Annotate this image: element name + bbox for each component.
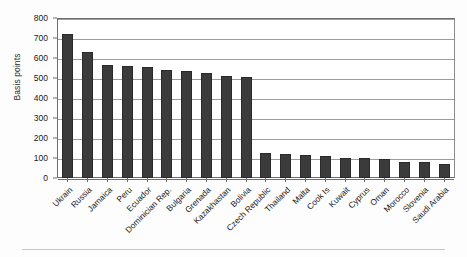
bar-slot xyxy=(216,18,236,178)
y-tick-label-500: 500 xyxy=(34,73,48,83)
y-tick-label-700: 700 xyxy=(34,33,48,43)
x-label-slot: Cook Is xyxy=(315,182,335,252)
x-label-slot: Jamaica xyxy=(98,182,118,252)
bar xyxy=(320,156,331,178)
bar xyxy=(82,52,93,178)
y-tick-label-300: 300 xyxy=(34,113,48,123)
bar-chart: Basis points 0100200300400500600700800 U… xyxy=(0,0,467,257)
x-label-slot: Kuwait xyxy=(335,182,355,252)
bar xyxy=(102,65,113,178)
bar-slot xyxy=(395,18,415,178)
bar xyxy=(201,73,212,178)
bar-slot xyxy=(315,18,335,178)
bar xyxy=(62,34,73,178)
y-tick-label-600: 600 xyxy=(34,53,48,63)
y-tick-label-100: 100 xyxy=(34,153,48,163)
bar xyxy=(241,77,252,178)
bar-slot xyxy=(375,18,395,178)
bar-slot xyxy=(296,18,316,178)
y-tick-label-800: 800 xyxy=(34,13,48,23)
bar-slot xyxy=(117,18,137,178)
bar-slot xyxy=(98,18,118,178)
bottom-table-strip xyxy=(22,249,445,257)
x-label-slot: Ukrain xyxy=(58,182,78,252)
y-axis-tick-labels: 0100200300400500600700800 xyxy=(0,0,57,200)
x-label-slot: Oman xyxy=(375,182,395,252)
bar xyxy=(379,159,390,178)
bar xyxy=(260,153,271,178)
bar-slot xyxy=(137,18,157,178)
bar-slot xyxy=(58,18,78,178)
bar-series xyxy=(58,18,454,178)
x-label-slot: Russia xyxy=(78,182,98,252)
bar xyxy=(221,76,232,178)
bar xyxy=(122,66,133,178)
bar-slot xyxy=(157,18,177,178)
x-label-slot: Thailand xyxy=(276,182,296,252)
y-tick-label-400: 400 xyxy=(34,93,48,103)
y-tick-label-200: 200 xyxy=(34,133,48,143)
bar-slot xyxy=(256,18,276,178)
bar xyxy=(419,162,430,178)
bar xyxy=(161,70,172,178)
bar xyxy=(280,154,291,178)
x-axis-tick-labels: UkrainRussiaJamaicaPeruEcuadorDominician… xyxy=(58,182,454,252)
bar-slot xyxy=(414,18,434,178)
y-tick-label-0: 0 xyxy=(43,173,48,183)
x-label-slot: Cyprus xyxy=(355,182,375,252)
bar xyxy=(300,155,311,178)
bar xyxy=(181,71,192,178)
bar-slot xyxy=(236,18,256,178)
x-label-slot: Czech Republic xyxy=(256,182,276,252)
x-label-slot: Malta xyxy=(296,182,316,252)
bar xyxy=(359,158,370,178)
bar-slot xyxy=(335,18,355,178)
bar-slot xyxy=(276,18,296,178)
x-label-slot: Dominician Rep. xyxy=(157,182,177,252)
bar-slot xyxy=(355,18,375,178)
bar xyxy=(142,67,153,178)
bar-slot xyxy=(78,18,98,178)
x-label-slot: Saudi Arabia xyxy=(434,182,454,252)
bar-slot xyxy=(434,18,454,178)
bar-slot xyxy=(177,18,197,178)
bar xyxy=(340,158,351,178)
bar-slot xyxy=(197,18,217,178)
bar xyxy=(399,162,410,178)
bar xyxy=(439,164,450,178)
